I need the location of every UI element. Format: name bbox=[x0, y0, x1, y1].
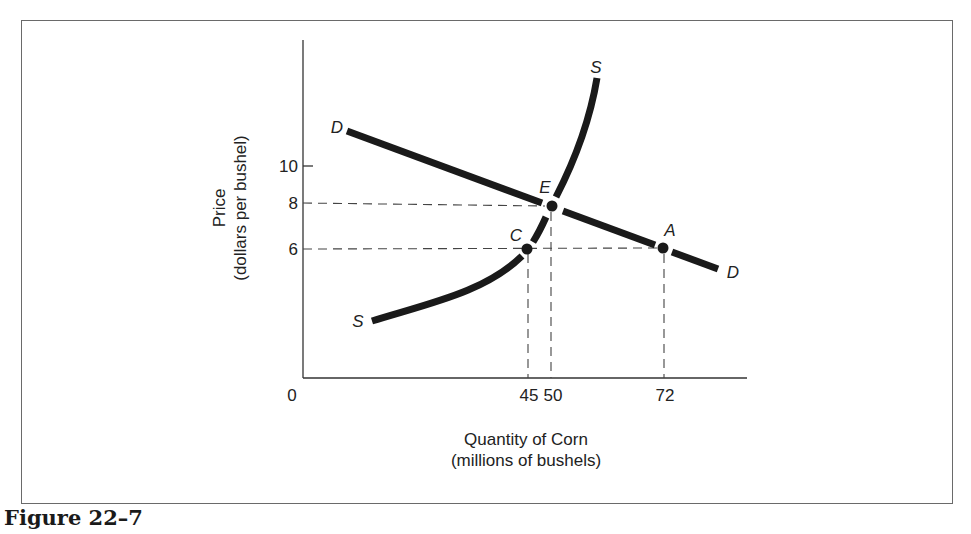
x-axis-title-line2: (millions of bushels) bbox=[451, 451, 601, 470]
y-axis-title-line1: Price bbox=[210, 189, 229, 228]
origin-label: 0 bbox=[287, 386, 296, 405]
y-axis-title-line2: (dollars per bushel) bbox=[231, 135, 250, 281]
y-axis-title: Price (dollars per bushel) bbox=[210, 135, 250, 281]
figure-caption: Figure 22–7 bbox=[4, 505, 143, 530]
y-tick-label-8: 8 bbox=[289, 194, 298, 213]
supply-curve bbox=[372, 78, 597, 321]
x-tick-label-72: 72 bbox=[656, 386, 675, 405]
point-e-marker bbox=[547, 201, 558, 212]
point-a-marker bbox=[658, 243, 669, 254]
y-tick-label-6: 6 bbox=[289, 240, 298, 259]
demand-label-top: D bbox=[331, 118, 343, 137]
y-tick-label-10: 10 bbox=[279, 157, 298, 176]
point-e-label: E bbox=[539, 178, 551, 197]
point-c-label: C bbox=[510, 226, 523, 245]
x-tick-label-45: 45 bbox=[520, 386, 539, 405]
point-a-label: A bbox=[663, 221, 675, 240]
x-tick-label-50: 50 bbox=[544, 386, 563, 405]
supply-label-bottom: S bbox=[352, 312, 364, 331]
demand-label-bottom: D bbox=[727, 263, 739, 282]
x-axis-title-line1: Quantity of Corn bbox=[464, 430, 588, 449]
point-c-marker bbox=[522, 244, 533, 255]
supply-label-top: S bbox=[590, 58, 602, 77]
supply-demand-chart: 10 8 6 0 45 50 72 Quantity of Corn (mill… bbox=[0, 0, 971, 534]
